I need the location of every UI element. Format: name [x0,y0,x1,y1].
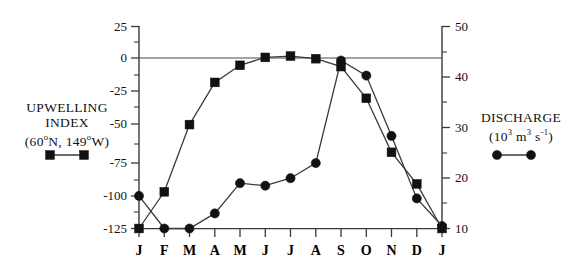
chart-figure: 25 0 -25 -50 -75 -100 -125 50 40 30 20 1… [0,0,579,279]
right-tick-label-50: 50 [455,19,468,35]
x-axis-ticks [139,229,442,237]
left-tick-label-25: 25 [83,19,127,35]
x-tick-label-dec: D [407,243,427,259]
left-tick-label--100: -100 [80,188,127,204]
data-point-upwelling [438,224,447,233]
data-point-upwelling [135,224,144,233]
right-major-ticks [442,27,450,229]
legend-upwelling-line2: INDEX [8,115,126,130]
data-point-upwelling [311,54,320,63]
legend-upwelling-line1: UPWELLING [8,100,126,115]
x-tick-label-apr: A [205,243,225,259]
series-upwelling [135,52,447,233]
data-point-upwelling [236,61,245,70]
x-tick-label-sep: S [331,243,351,259]
square-marker-key [46,151,55,160]
x-tick-label-jan2: J [432,243,452,259]
data-point-upwelling [362,94,371,103]
data-point-discharge [362,71,371,80]
series-discharge [134,56,446,233]
data-point-upwelling [412,180,421,189]
left-minor-ticks [134,42,139,212]
data-point-discharge [185,224,194,233]
legend-discharge-line1: DISCHARGE [463,110,579,125]
legend-discharge-line2: (103 m3 s-1) [463,125,579,144]
data-point-discharge [160,224,169,233]
x-tick-label-feb: F [154,243,174,259]
data-point-upwelling [160,187,169,196]
data-point-discharge [210,209,219,218]
data-point-upwelling [337,62,346,71]
data-point-upwelling [286,52,295,61]
data-point-discharge [387,131,396,140]
x-tick-label-aug: A [306,243,326,259]
left-tick-label--75: -75 [83,155,127,171]
left-tick-label--125: -125 [80,221,127,237]
legend-upwelling-line3: (60oN, 149oW) [8,130,126,149]
x-tick-label-mar: M [180,243,200,259]
legend-upwelling: UPWELLING INDEX (60oN, 149oW) [8,100,126,149]
legend-key-discharge [492,150,535,159]
x-tick-label-oct: O [356,243,376,259]
x-tick-label-nov: N [382,243,402,259]
x-tick-label-jul: J [281,243,301,259]
data-point-discharge [134,191,143,200]
right-tick-label-10: 10 [455,221,468,237]
data-point-upwelling [387,148,396,157]
data-point-discharge [235,179,244,188]
data-point-upwelling [210,78,219,87]
data-point-discharge [412,194,421,203]
left-tick-label-0: 0 [83,50,127,66]
x-tick-label-jun: J [255,243,275,259]
circle-marker-key [492,150,501,159]
x-tick-label-jan: J [129,243,149,259]
data-point-discharge [286,174,295,183]
right-tick-label-40: 40 [455,69,468,85]
right-tick-label-20: 20 [455,170,468,186]
legend-discharge: DISCHARGE (103 m3 s-1) [463,110,579,144]
data-point-discharge [261,181,270,190]
data-point-upwelling [185,120,194,129]
legend-key-upwelling [46,151,89,160]
left-tick-label--25: -25 [83,83,127,99]
x-tick-label-may: M [230,243,250,259]
data-point-discharge [311,159,320,168]
data-point-upwelling [261,53,270,62]
circle-marker-key [526,150,535,159]
